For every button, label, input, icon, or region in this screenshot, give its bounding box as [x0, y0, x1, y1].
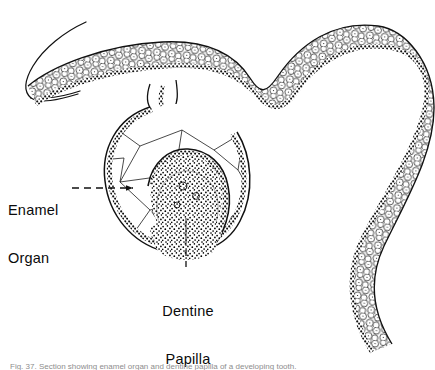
enamel-organ-label-line2: Organ	[8, 250, 58, 266]
enamel-organ-label-line1: Enamel	[8, 202, 58, 218]
dentine-papilla-label-line1: Dentine	[133, 303, 243, 319]
enamel-organ-label: Enamel Organ	[8, 170, 58, 282]
dentine-papilla-label: Dentine Papilla	[133, 271, 243, 370]
figure-caption: Fig. 37. Section showing enamel organ an…	[10, 361, 430, 370]
